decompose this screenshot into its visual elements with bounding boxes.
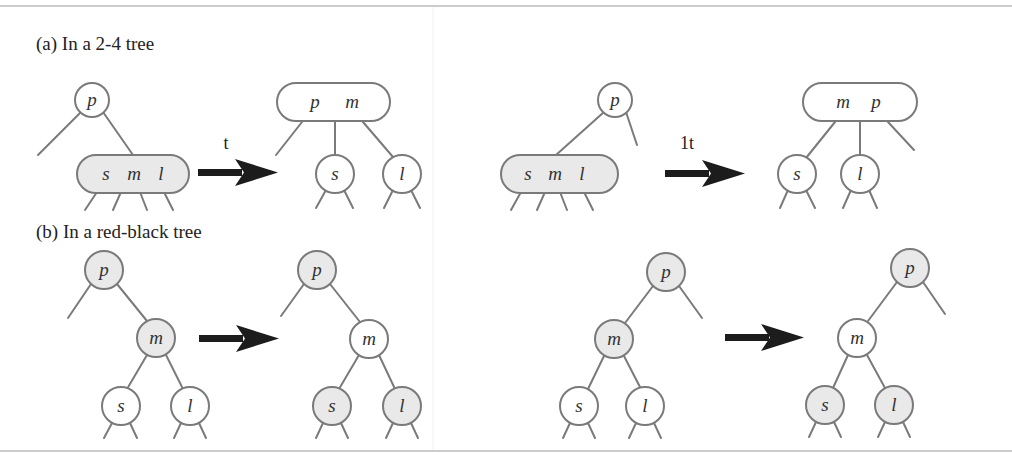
svg-text:m: m — [607, 328, 621, 349]
svg-text:m: m — [345, 91, 359, 112]
svg-text:m: m — [127, 163, 141, 184]
node-pm — [277, 83, 390, 121]
red-black-right-before: p m s l — [560, 253, 702, 438]
svg-text:m: m — [149, 327, 163, 348]
red-black-left-after: p m s l — [281, 251, 421, 438]
svg-text:l: l — [399, 163, 404, 184]
svg-text:l: l — [158, 163, 163, 184]
two-four-right-after: m p s l — [778, 83, 917, 208]
svg-text:p: p — [869, 91, 881, 112]
arrow-b-right — [725, 324, 804, 351]
two-four-right-before: p s m l — [501, 83, 637, 210]
svg-text:p: p — [903, 257, 915, 278]
two-four-left-before: p s m l — [38, 83, 189, 210]
arrow-b-left — [199, 325, 279, 352]
svg-text:l: l — [399, 395, 404, 416]
arrow-a-right: 1t — [665, 133, 745, 187]
caption-red-black-tree: (b) In a red-black tree — [36, 221, 202, 243]
svg-text:1t: 1t — [680, 133, 694, 153]
svg-text:p: p — [85, 89, 97, 110]
arrow-a-left: t — [198, 133, 278, 186]
svg-text:p: p — [310, 259, 322, 280]
svg-text:m: m — [362, 328, 376, 349]
svg-text:p: p — [308, 91, 320, 112]
svg-text:s: s — [524, 163, 531, 184]
svg-text:m: m — [836, 91, 850, 112]
svg-text:s: s — [575, 395, 582, 416]
svg-text:p: p — [97, 259, 109, 280]
svg-text:l: l — [642, 395, 647, 416]
svg-text:l: l — [579, 163, 584, 184]
svg-text:l: l — [857, 163, 862, 184]
svg-text:t: t — [223, 133, 228, 153]
node-mp — [803, 83, 917, 121]
svg-text:s: s — [821, 394, 828, 415]
svg-text:s: s — [328, 395, 335, 416]
svg-text:p: p — [608, 89, 620, 110]
caption-2-4-tree: (a) In a 2-4 tree — [36, 33, 154, 55]
split-diagram: (a) In a 2-4 tree (b) In a red-black tre… — [0, 0, 1012, 463]
svg-text:m: m — [850, 327, 864, 348]
red-black-right-after: p m s l — [806, 249, 945, 437]
svg-text:m: m — [548, 163, 562, 184]
svg-text:l: l — [187, 395, 192, 416]
svg-text:s: s — [331, 163, 338, 184]
svg-text:p: p — [659, 261, 671, 282]
red-black-left-before: p m s l — [68, 251, 209, 438]
svg-text:l: l — [891, 394, 896, 415]
two-four-left-after: p m s l — [276, 83, 421, 208]
svg-text:s: s — [102, 163, 109, 184]
svg-text:s: s — [117, 395, 124, 416]
svg-text:s: s — [793, 163, 800, 184]
